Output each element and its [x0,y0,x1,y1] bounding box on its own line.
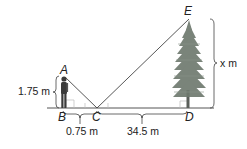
line-AC [65,77,97,108]
point-label-B: B [58,111,66,123]
person [61,76,68,108]
diagram-canvas [0,0,247,149]
point-label-C: C [92,111,101,123]
brace-tree-height [210,19,217,108]
diagram: A B C D E 1.75 m 0.75 m 34.5 m x m [0,0,247,149]
person-leg-right [64,93,66,108]
person-torso [61,82,67,94]
person-arm [67,83,69,92]
label-tree-height: x m [220,58,237,69]
tree [172,20,206,108]
point-label-A: A [60,64,68,76]
brace-person-height [53,76,59,108]
point-label-E: E [184,5,192,17]
label-BC-distance: 0.75 m [66,126,98,137]
label-CD-distance: 34.5 m [127,126,159,137]
right-angle-markers [66,100,187,108]
line-CE [97,19,189,108]
label-person-height: 1.75 m [18,86,50,97]
tree-foliage [172,20,206,97]
brace-CD [98,111,187,118]
point-label-D: D [185,111,194,123]
person-leg-left [61,93,63,108]
